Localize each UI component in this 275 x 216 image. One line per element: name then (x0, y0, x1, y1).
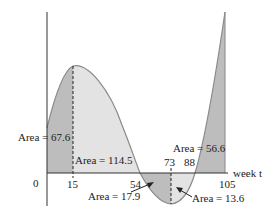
region-0-15 (47, 66, 73, 173)
tick-0: 0 (33, 177, 39, 189)
area-label-67-6: Area = 67.6 (18, 131, 71, 143)
area-label-56-6: Area = 56.6 (173, 142, 226, 154)
area-label-13-6: Area = 13.6 (192, 192, 245, 204)
area-chart: 0 15 54 73 88 105 week t Area = 67.6 Are… (0, 0, 275, 216)
area-label-17-9: Area = 17.9 (88, 190, 141, 202)
tick-73: 73 (164, 156, 176, 168)
area-label-114-5: Area = 114.5 (75, 154, 133, 166)
tick-105: 105 (219, 178, 236, 190)
x-axis-label: week t (233, 167, 262, 179)
tick-88: 88 (184, 156, 196, 168)
region-54-73 (140, 173, 171, 204)
tick-15: 15 (67, 178, 79, 190)
